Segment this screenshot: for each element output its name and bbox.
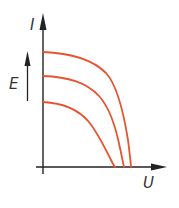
up-arrow-icon	[25, 51, 31, 66]
y-axis-arrow-icon	[40, 13, 47, 30]
curve-low-E	[43, 102, 115, 167]
y-axis	[40, 13, 47, 174]
curve-mid-E	[43, 76, 124, 167]
iv-characteristic-diagram: I U E	[0, 0, 179, 208]
parameter-arrow	[25, 51, 31, 101]
x-axis-label: U	[143, 174, 154, 192]
parameter-label: E	[9, 75, 19, 93]
curves	[43, 52, 131, 167]
curve-high-E	[43, 52, 131, 167]
x-axis-arrow-icon	[151, 164, 167, 171]
y-axis-label: I	[30, 16, 35, 34]
diagram-canvas: I U E	[0, 0, 179, 208]
x-axis	[36, 164, 167, 171]
